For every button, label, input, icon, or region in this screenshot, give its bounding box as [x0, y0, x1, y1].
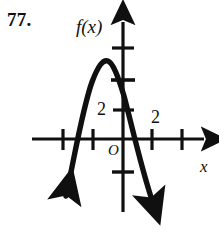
function-curve-path	[66, 61, 151, 197]
function-axis-label: f(x)	[76, 17, 102, 36]
problem-number: 77.	[7, 10, 31, 29]
x-axis-label: x	[200, 158, 208, 175]
figure-canvas: 77. f(x) 2 2 O x	[0, 0, 219, 238]
origin-label: O	[108, 143, 119, 158]
graph-svg	[0, 0, 219, 238]
x-axis-tick-label-2: 2	[151, 108, 160, 126]
y-axis-tick-label-2: 2	[97, 100, 106, 118]
parabola-curve	[66, 61, 151, 197]
